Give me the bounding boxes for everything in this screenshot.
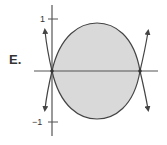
right-branch-up [140,32,148,71]
left-branch-up [45,31,52,71]
left-branch-down [45,71,52,109]
intersection-right [138,69,142,73]
right-branch-down [140,71,148,109]
y-tick-label-neg1: −1 [32,117,42,127]
y-tick-label-1: 1 [40,14,45,24]
figure: E. 1 −1 [0,0,167,145]
graph: 1 −1 [0,0,167,145]
intersection-left [50,69,54,73]
